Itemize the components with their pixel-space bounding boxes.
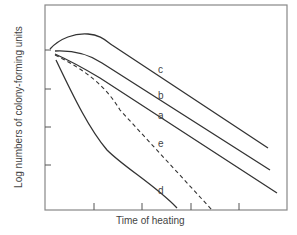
y-ticks	[45, 50, 51, 165]
label-c: c	[158, 64, 163, 75]
survival-curves-chart: c b a e d	[0, 0, 297, 235]
x-axis-label: Time of heating	[116, 215, 185, 226]
label-e: e	[158, 138, 164, 149]
label-d: d	[158, 185, 164, 196]
label-a: a	[158, 110, 164, 121]
label-b: b	[158, 90, 164, 101]
plot-frame	[45, 5, 287, 210]
curve-e	[55, 55, 212, 210]
y-axis-label: Log numbers of colony-forming units	[12, 7, 26, 207]
x-ticks	[94, 203, 239, 210]
